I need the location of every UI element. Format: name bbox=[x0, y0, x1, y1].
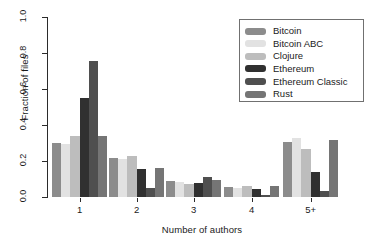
bar bbox=[283, 142, 292, 197]
bar bbox=[233, 188, 242, 197]
bar bbox=[98, 136, 107, 197]
bar bbox=[184, 184, 193, 197]
legend-item-bitcoin[interactable]: Bitcoin bbox=[245, 25, 302, 37]
bar bbox=[270, 186, 279, 197]
bar bbox=[194, 183, 203, 197]
bar bbox=[70, 136, 79, 197]
bar bbox=[301, 149, 310, 197]
bar bbox=[118, 159, 127, 197]
x-tick-mark bbox=[311, 198, 312, 202]
bar bbox=[320, 191, 329, 197]
x-axis-title: Number of authors bbox=[47, 224, 357, 235]
bar bbox=[166, 181, 175, 197]
legend-swatch-icon bbox=[245, 40, 266, 47]
bar bbox=[127, 156, 136, 197]
legend-label: Ethereum Classic bbox=[273, 77, 347, 87]
legend: BitcoinBitcoin ABCClojureEthereumEthereu… bbox=[239, 19, 364, 102]
x-tick-label: 4 bbox=[232, 204, 272, 215]
x-tick-mark bbox=[194, 198, 195, 202]
legend-label: Bitcoin ABC bbox=[273, 39, 323, 49]
legend-label: Bitcoin bbox=[273, 26, 302, 36]
bar-chart-figure: Fraction of files 0.00.20.40.60.81.0 123… bbox=[0, 0, 373, 246]
x-tick-label: 2 bbox=[117, 204, 157, 215]
x-tick-label: 1 bbox=[60, 204, 100, 215]
bar bbox=[109, 158, 118, 197]
bar bbox=[80, 98, 89, 197]
legend-item-bitcoin-abc[interactable]: Bitcoin ABC bbox=[245, 38, 323, 50]
bar bbox=[224, 187, 233, 197]
bar bbox=[203, 177, 212, 197]
legend-item-clojure[interactable]: Clojure bbox=[245, 50, 303, 62]
bar bbox=[61, 144, 70, 197]
bar bbox=[212, 180, 221, 197]
legend-label: Clojure bbox=[273, 51, 303, 61]
x-tick-mark bbox=[80, 198, 81, 202]
bar bbox=[175, 182, 184, 197]
bar bbox=[89, 61, 98, 197]
bar bbox=[311, 172, 320, 197]
legend-label: Rust bbox=[273, 89, 293, 99]
legend-swatch-icon bbox=[245, 53, 266, 60]
x-tick-mark bbox=[137, 198, 138, 202]
x-tick-mark bbox=[252, 198, 253, 202]
legend-swatch-icon bbox=[245, 28, 266, 35]
legend-item-ethereum-classic[interactable]: Ethereum Classic bbox=[245, 75, 347, 87]
legend-swatch-icon bbox=[245, 65, 266, 72]
bar bbox=[242, 186, 251, 197]
legend-swatch-icon bbox=[245, 78, 266, 85]
x-tick-label: 3 bbox=[174, 204, 214, 215]
bar bbox=[261, 195, 270, 197]
legend-label: Ethereum bbox=[273, 64, 314, 74]
bar bbox=[52, 143, 61, 197]
legend-item-rust[interactable]: Rust bbox=[245, 88, 293, 100]
bar bbox=[329, 140, 338, 197]
bar bbox=[146, 188, 155, 197]
legend-swatch-icon bbox=[245, 91, 266, 98]
x-tick-label: 5+ bbox=[291, 204, 331, 215]
bar bbox=[292, 138, 301, 197]
legend-item-ethereum[interactable]: Ethereum bbox=[245, 63, 314, 75]
bar bbox=[252, 189, 261, 197]
bar bbox=[137, 169, 146, 197]
bar bbox=[155, 168, 164, 197]
